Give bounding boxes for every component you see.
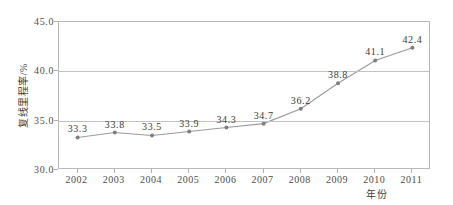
gridline-y-40 xyxy=(59,71,429,72)
series-line-复线里程率 xyxy=(59,22,431,170)
x-axis-tick-labels: 2002200320042005200620072008200920102011 xyxy=(58,171,430,187)
y-tick-mark-30.0 xyxy=(54,169,58,170)
x-tick-mark-2003 xyxy=(114,169,115,173)
x-tick-label-2011: 2011 xyxy=(401,174,423,185)
y-tick-label-45.0: 45.0 xyxy=(2,16,54,27)
data-point-2006 xyxy=(224,126,228,130)
x-tick-mark-2005 xyxy=(188,169,189,173)
x-tick-label-2009: 2009 xyxy=(326,174,348,185)
x-tick-mark-2006 xyxy=(225,169,226,173)
data-point-2004 xyxy=(150,133,154,137)
x-axis-title: 年份 xyxy=(366,186,388,201)
x-tick-mark-2007 xyxy=(263,169,264,173)
x-tick-label-2004: 2004 xyxy=(140,174,162,185)
x-tick-label-2007: 2007 xyxy=(252,174,274,185)
x-tick-label-2010: 2010 xyxy=(363,174,385,185)
y-tick-label-35.0: 35.0 xyxy=(2,114,54,125)
plot-area: 33.333.833.533.934.334.736.238.841.142.4 xyxy=(58,21,430,169)
data-point-2011 xyxy=(410,46,414,50)
data-point-2010 xyxy=(373,58,377,62)
x-tick-mark-2004 xyxy=(151,169,152,173)
data-point-2002 xyxy=(76,135,80,139)
x-tick-mark-2010 xyxy=(374,169,375,173)
x-tick-mark-2011 xyxy=(411,169,412,173)
x-tick-mark-2009 xyxy=(337,169,338,173)
x-tick-label-2002: 2002 xyxy=(66,174,88,185)
x-tick-label-2008: 2008 xyxy=(289,174,311,185)
x-tick-mark-2002 xyxy=(77,169,78,173)
data-point-2007 xyxy=(262,122,266,126)
y-tick-label-40.0: 40.0 xyxy=(2,65,54,76)
data-point-2009 xyxy=(336,81,340,85)
y-tick-label-30.0: 30.0 xyxy=(2,164,54,175)
x-tick-label-2005: 2005 xyxy=(177,174,199,185)
data-point-2003 xyxy=(113,131,117,135)
x-tick-mark-2008 xyxy=(300,169,301,173)
series-polyline xyxy=(78,48,413,138)
y-axis-tick-labels: 30.035.040.045.0 xyxy=(0,21,54,169)
line-chart: 复线里程率/% 30.035.040.045.0 33.333.833.533.… xyxy=(0,0,453,205)
x-tick-label-2006: 2006 xyxy=(214,174,236,185)
data-point-2005 xyxy=(187,130,191,134)
gridline-y-35 xyxy=(59,121,429,122)
x-tick-label-2003: 2003 xyxy=(103,174,125,185)
data-point-2008 xyxy=(299,107,303,111)
